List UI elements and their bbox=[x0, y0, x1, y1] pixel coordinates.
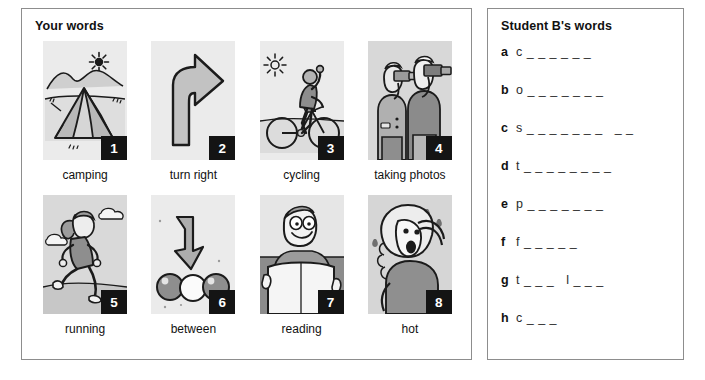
word-blank-letter: g bbox=[501, 273, 516, 287]
runner-illustration: 5 bbox=[43, 195, 127, 314]
picture-number-badge: 7 bbox=[318, 290, 344, 314]
word-blank-letter: b bbox=[501, 83, 516, 97]
word-blank-row[interactable]: a c _ _ _ _ _ _ bbox=[501, 45, 676, 83]
word-blank-row[interactable]: g t _ _ _ l _ _ _ bbox=[501, 273, 676, 311]
picture-cell-hot: 8 hot bbox=[356, 195, 464, 349]
word-blank-row[interactable]: f f _ _ _ _ _ bbox=[501, 235, 676, 273]
word-blank-line[interactable]: o _ _ _ _ _ _ _ bbox=[516, 83, 603, 97]
picture-caption: cycling bbox=[283, 169, 320, 182]
word-blank-line[interactable]: t _ _ _ _ _ _ _ _ bbox=[516, 159, 611, 173]
your-words-title: Your words bbox=[35, 19, 104, 33]
picture-number-badge: 3 bbox=[318, 136, 344, 160]
picture-caption: between bbox=[171, 323, 216, 336]
picture-caption: turn right bbox=[170, 169, 217, 182]
word-blank-line[interactable]: f _ _ _ _ _ bbox=[516, 235, 577, 249]
word-blank-line[interactable]: p _ _ _ _ _ _ _ bbox=[516, 197, 603, 211]
picture-number-badge: 5 bbox=[101, 290, 127, 314]
your-words-panel: Your words bbox=[21, 8, 472, 360]
picture-caption: running bbox=[65, 323, 105, 336]
word-blank-letter: f bbox=[501, 235, 516, 249]
picture-grid: 1 camping 2 turn right bbox=[31, 41, 464, 349]
picture-cell-reading: 7 reading bbox=[248, 195, 356, 349]
picture-number-badge: 6 bbox=[209, 290, 235, 314]
word-blank-letter: h bbox=[501, 311, 516, 325]
photographers-illustration: 4 bbox=[368, 41, 452, 160]
word-blank-letter: a bbox=[501, 45, 516, 59]
picture-caption: camping bbox=[62, 169, 107, 182]
arrow-between-balls-illustration: 6 bbox=[151, 195, 235, 314]
hot-woman-sweating-illustration: 8 bbox=[368, 195, 452, 314]
picture-caption: hot bbox=[402, 323, 419, 336]
worksheet: Your words bbox=[0, 0, 705, 380]
word-blank-letter: d bbox=[501, 159, 516, 173]
picture-number-badge: 1 bbox=[101, 136, 127, 160]
word-blank-line[interactable]: s _ _ _ _ _ _ _ _ _ bbox=[516, 121, 634, 135]
picture-number-badge: 2 bbox=[209, 136, 235, 160]
man-reading-newspaper-illustration: 7 bbox=[260, 195, 344, 314]
word-blank-line[interactable]: c _ _ _ bbox=[516, 311, 557, 325]
picture-cell-between: 6 between bbox=[139, 195, 247, 349]
word-blank-letter: c bbox=[501, 121, 516, 135]
word-blank-row[interactable]: b o _ _ _ _ _ _ _ bbox=[501, 83, 676, 121]
picture-cell-taking-photos: 4 taking photos bbox=[356, 41, 464, 195]
word-blank-row[interactable]: d t _ _ _ _ _ _ _ _ bbox=[501, 159, 676, 197]
word-blank-row[interactable]: h c _ _ _ bbox=[501, 311, 676, 349]
picture-caption: reading bbox=[282, 323, 322, 336]
word-blank-letter: e bbox=[501, 197, 516, 211]
student-b-words-title: Student B's words bbox=[501, 19, 612, 33]
student-b-words-panel: Student B's words a c _ _ _ _ _ _ b o _ … bbox=[487, 8, 684, 360]
cyclist-illustration: 3 bbox=[260, 41, 344, 160]
word-blank-line[interactable]: c _ _ _ _ _ _ bbox=[516, 45, 591, 59]
word-blank-row[interactable]: e p _ _ _ _ _ _ _ bbox=[501, 197, 676, 235]
word-blank-list: a c _ _ _ _ _ _ b o _ _ _ _ _ _ _ c s _ … bbox=[501, 45, 676, 349]
word-blank-row[interactable]: c s _ _ _ _ _ _ _ _ _ bbox=[501, 121, 676, 159]
picture-caption: taking photos bbox=[374, 169, 445, 182]
word-blank-line[interactable]: t _ _ _ l _ _ _ bbox=[516, 273, 604, 287]
turn-right-arrow-illustration: 2 bbox=[151, 41, 235, 160]
picture-cell-cycling: 3 cycling bbox=[248, 41, 356, 195]
picture-cell-turn-right: 2 turn right bbox=[139, 41, 247, 195]
picture-cell-running: 5 running bbox=[31, 195, 139, 349]
picture-number-badge: 4 bbox=[426, 136, 452, 160]
picture-cell-camping: 1 camping bbox=[31, 41, 139, 195]
picture-number-badge: 8 bbox=[426, 290, 452, 314]
tent-illustration: 1 bbox=[43, 41, 127, 160]
